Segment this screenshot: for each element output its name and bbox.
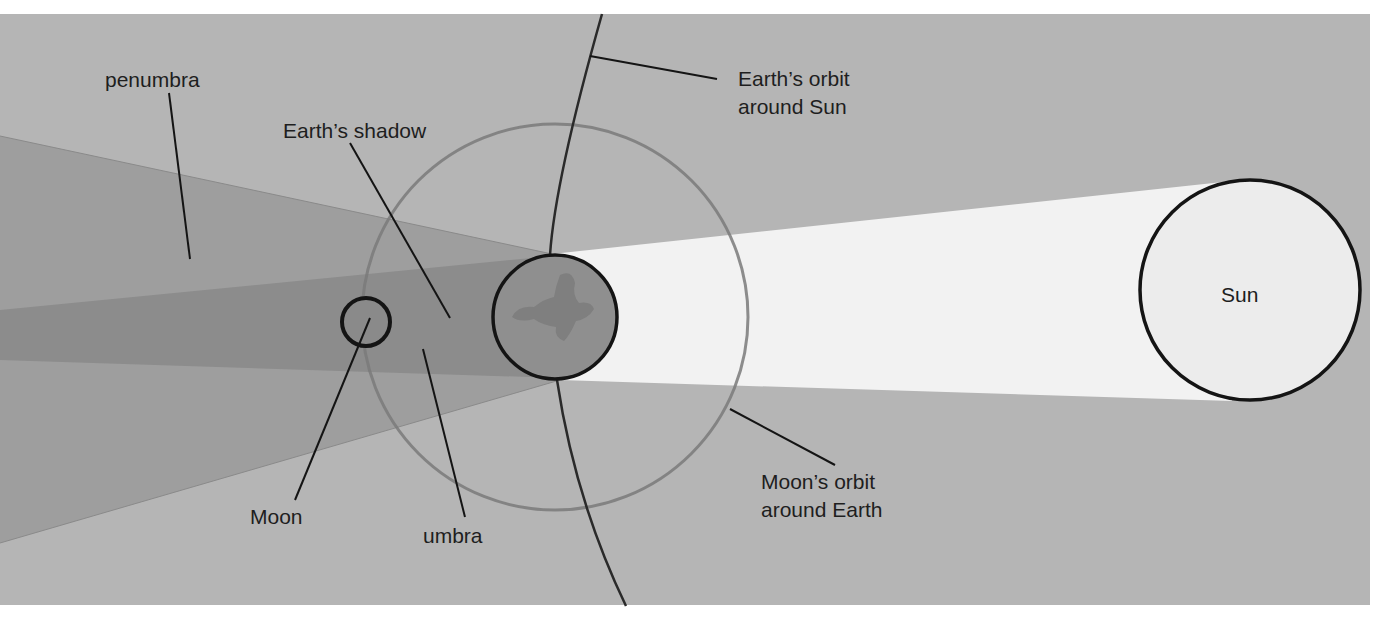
moon-label: Moon [250,505,303,528]
earth-orbit-label-line1: Earth’s orbit [738,67,850,90]
umbra-label: umbra [423,524,483,547]
lunar-eclipse-diagram: penumbra Earth’s shadow Earth’s orbit ar… [0,0,1388,624]
earth-orbit-label-line2: around Sun [738,95,847,118]
earth [493,255,617,379]
earths-shadow-label: Earth’s shadow [283,119,427,142]
moon [342,298,390,346]
moon-orbit-label-line2: around Earth [761,498,882,521]
penumbra-label: penumbra [105,68,200,91]
moon-orbit-label-line1: Moon’s orbit [761,470,875,493]
sun-label: Sun [1221,283,1258,306]
